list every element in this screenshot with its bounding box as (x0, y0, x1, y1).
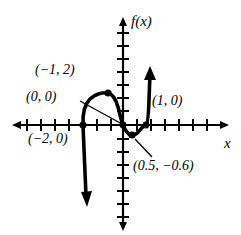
x-axis-label: x (224, 136, 231, 151)
curve-up-arrow (144, 66, 156, 80)
leader-line-local-min (135, 139, 152, 157)
y-axis-down-arrow (119, 222, 127, 231)
coordinate-plane (0, 0, 241, 235)
point-marker-right-root (143, 122, 150, 129)
function-graph-figure: (−1, 2) (0, 0) (−2, 0) (1, 0) (0.5, −0.6… (0, 0, 241, 235)
annotation-local-min: (0.5, −0.6) (133, 159, 194, 173)
point-marker-left-root (79, 121, 86, 128)
annotation-origin: (0, 0) (26, 90, 56, 104)
y-axis-up-arrow (119, 17, 127, 26)
point-marker-local-max (104, 89, 111, 96)
y-axis-label: f(x) (131, 14, 152, 29)
function-curve (81, 66, 156, 207)
curve-down-arrow (81, 191, 92, 207)
x-axis-right-arrow (220, 121, 229, 129)
x-axis-left-arrow (12, 121, 21, 129)
point-marker-local-min (128, 131, 135, 138)
annotation-right-root: (1, 0) (152, 94, 182, 108)
annotation-left-root: (−2, 0) (28, 132, 68, 146)
annotation-local-max: (−1, 2) (35, 63, 75, 77)
